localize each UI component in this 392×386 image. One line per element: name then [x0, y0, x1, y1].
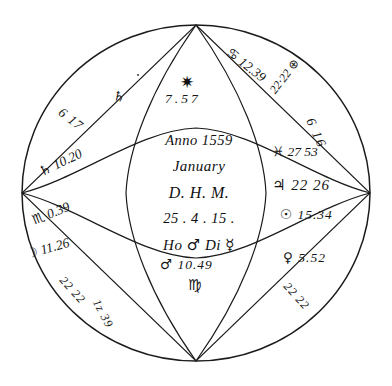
mercury-icon: ☿	[225, 236, 235, 254]
astrological-chart: Anno 1559 January D. H. M. 25 . 4 . 15 .…	[0, 0, 392, 386]
cusp-lower-right-venus-value: 5.52	[298, 250, 326, 265]
cusp-right-sun: ☉ 15.34	[280, 208, 333, 222]
center-line-dhm: D. H. M.	[169, 184, 229, 202]
center-line-month: January	[173, 158, 226, 175]
fixed-star-icon: ✷	[180, 72, 194, 92]
center-panel-text: Anno 1559 January D. H. M. 25 . 4 . 15 .…	[126, 128, 272, 256]
pisces-icon: ♓	[272, 143, 284, 159]
virgo-icon: ♍	[188, 278, 201, 293]
center-line-numbers: 25 . 4 . 15 .	[163, 210, 235, 227]
mars-bottom-icon: ♂	[160, 256, 173, 272]
sun-icon: ☉	[280, 206, 293, 222]
cusp-bottom-mars-value: 10.49	[177, 257, 212, 272]
mars-icon: ♂	[187, 236, 201, 254]
cusp-right-sun-value: 15.34	[297, 207, 332, 222]
center-line-ho-di: Ho ♂ Di ☿	[163, 236, 235, 254]
cusp-right-jupiter: ♃ 22 26	[272, 178, 330, 193]
ho-label: Ho	[163, 237, 182, 253]
cusp-right-pisces: ♓ 27 53	[272, 145, 318, 159]
di-label: Di	[205, 237, 221, 253]
fixed-star-value: 7.57	[165, 92, 201, 106]
center-line-anno: Anno 1559	[165, 132, 233, 149]
cusp-lower-right-venus: ♀ 5.52	[283, 251, 326, 265]
cusp-bottom-mars: ♂ 10.49	[160, 258, 213, 272]
cusp-right-pisces-value: 27 53	[287, 144, 317, 159]
venus-icon: ♀	[283, 249, 294, 265]
jupiter-icon: ♃	[272, 176, 286, 194]
cusp-right-jupiter-value: 22 26	[291, 177, 330, 193]
ink-dot	[137, 74, 139, 76]
